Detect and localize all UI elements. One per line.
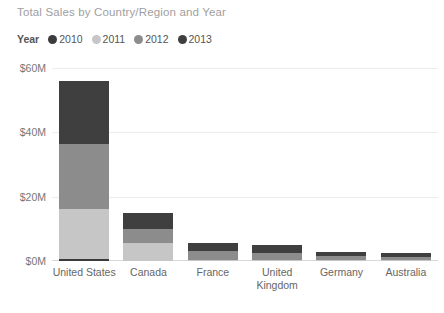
bar-segment[interactable] [123,243,173,261]
y-tick-label: $20M [20,191,46,203]
bar-series-group [52,68,438,261]
bar-segment[interactable] [188,251,238,259]
bar-stack[interactable] [123,213,173,261]
bar-segment[interactable] [381,260,431,261]
legend-label-2012: 2012 [145,33,168,45]
bar-segment[interactable] [252,260,302,261]
legend-title: Year [17,33,39,45]
x-tick-label: Australia [374,266,438,291]
x-tick-label: United Kingdom [245,266,309,291]
legend-swatch-2011 [92,35,101,44]
x-axis: United StatesCanadaFranceUnited KingdomG… [52,266,438,291]
bar-slot [245,68,309,261]
legend-item-2010[interactable]: 2010 [48,33,82,45]
bar-stack[interactable] [59,81,109,261]
legend-label-2013: 2013 [189,33,212,45]
bar-slot [52,68,116,261]
chart-title: Total Sales by Country/Region and Year [17,6,226,18]
bar-segment[interactable] [59,81,109,144]
y-tick-label: $40M [20,126,46,138]
bar-slot [374,68,438,261]
legend-item-2011[interactable]: 2011 [92,33,126,45]
x-tick-label: France [181,266,245,291]
bar-segment[interactable] [252,253,302,260]
legend-label-2010: 2010 [59,33,82,45]
bar-stack[interactable] [381,253,431,261]
legend-swatch-2010 [48,35,57,44]
bar-segment[interactable] [123,213,173,229]
y-tick-label: $0M [26,255,46,267]
bar-segment[interactable] [123,229,173,243]
chart-legend: Year 2010 2011 2012 2013 [17,32,221,46]
bar-slot [309,68,373,261]
y-axis: $0M$20M$40M$60M [0,68,46,261]
bar-slot [181,68,245,261]
bar-stack[interactable] [252,245,302,261]
legend-item-2013[interactable]: 2013 [178,33,212,45]
bar-stack[interactable] [188,243,238,261]
bar-segment[interactable] [316,260,366,261]
bar-segment[interactable] [188,260,238,261]
bar-stack[interactable] [316,252,366,261]
chart-card: Total Sales by Country/Region and Year Y… [0,0,444,313]
bar-segment[interactable] [59,144,109,209]
legend-swatch-2012 [134,35,143,44]
x-tick-label: Canada [116,266,180,291]
legend-swatch-2013 [178,35,187,44]
bar-segment[interactable] [252,245,302,253]
bar-slot [116,68,180,261]
x-tick-label: Germany [309,266,373,291]
bar-segment[interactable] [188,243,238,251]
legend-label-2011: 2011 [103,33,126,45]
x-tick-label: United States [52,266,116,291]
bar-segment[interactable] [59,209,109,260]
y-tick-label: $60M [20,62,46,74]
legend-item-2012[interactable]: 2012 [134,33,168,45]
bar-segment[interactable] [59,259,109,261]
